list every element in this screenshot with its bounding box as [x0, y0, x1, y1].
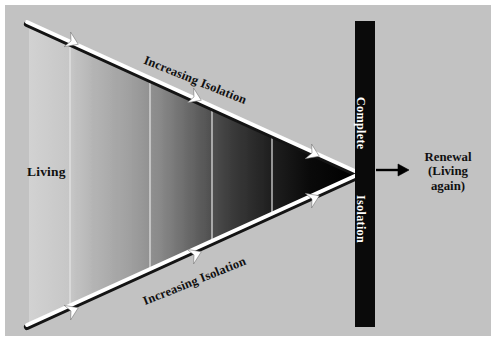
renewal-line-1: Renewal [406, 150, 490, 164]
diagram-canvas: Living Increasing Isolation Increasing I… [0, 0, 496, 350]
complete-bar-word-isolation: Isolation [353, 195, 368, 243]
renewal-line-2: (Living [406, 164, 490, 178]
complete-isolation-bar [355, 21, 375, 327]
renewal-line-3: again) [406, 179, 490, 193]
renewal-arrow [376, 164, 409, 176]
diagram-inner-canvas: Living Increasing Isolation Increasing I… [5, 5, 491, 336]
renewal-label: Renewal (Living again) [406, 150, 490, 193]
complete-bar-word-complete: Complete [353, 97, 368, 150]
living-label: Living [27, 164, 66, 179]
